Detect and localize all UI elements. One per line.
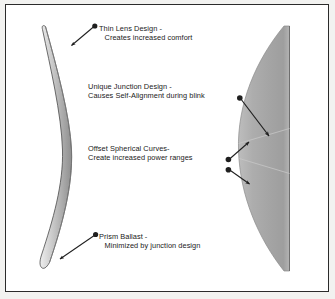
bullet-marker (92, 23, 97, 28)
annotation-offset-spherical-curves: Offset Spherical Curves- Create increase… (88, 144, 193, 162)
annotation-prism-ballast: Prism Ballast - Minimized by junction de… (99, 232, 200, 250)
bullet-marker (237, 95, 243, 101)
annotation-thin-lens: Thin Lens Design - Creates increased com… (99, 24, 192, 42)
annotation-unique-junction-line1: Unique Junction Design - (88, 82, 205, 91)
annotation-unique-junction-line2: Causes Self-Alignment during blink (88, 91, 205, 100)
annotation-thin-lens-line1: Thin Lens Design - (99, 24, 192, 33)
leader-prism-ballast (60, 232, 98, 259)
bullet-marker (93, 232, 98, 237)
leader-thin-lens (72, 23, 98, 45)
bullet-marker (226, 167, 232, 173)
diagram-page: Thin Lens Design - Creates increased com… (0, 0, 335, 299)
left-lens-shape (40, 26, 72, 269)
annotation-prism-ballast-line1: Prism Ballast - (99, 232, 200, 241)
annotation-thin-lens-line2: Creates increased comfort (99, 33, 192, 42)
right-lens-shape (238, 26, 289, 271)
annotation-offset-spherical-curves-line2: Create increased power ranges (88, 153, 193, 162)
annotation-unique-junction: Unique Junction Design - Causes Self-Ali… (88, 82, 205, 100)
annotation-prism-ballast-line2: Minimized by junction design (99, 241, 200, 250)
annotation-offset-spherical-curves-line1: Offset Spherical Curves- (88, 144, 193, 153)
bullet-marker (226, 157, 232, 163)
